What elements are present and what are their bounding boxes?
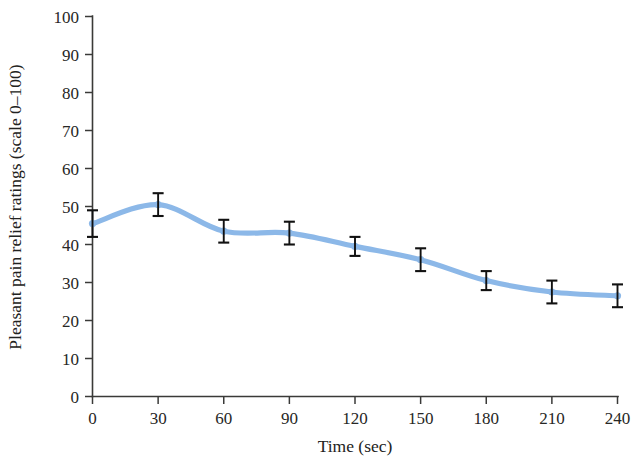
x-tick-label: 90: [281, 409, 298, 428]
y-tick-label: 70: [62, 122, 79, 141]
chart-figure: Pleasant pain relief ratings (scale 0–10…: [0, 0, 641, 458]
x-axis-title: Time (sec): [318, 436, 393, 456]
x-tick-label: 30: [150, 409, 167, 428]
y-tick-label: 0: [71, 388, 80, 407]
x-tick-label: 60: [215, 409, 232, 428]
y-tick-label: 60: [62, 160, 79, 179]
x-tick-label: 240: [605, 409, 631, 428]
x-axis-ticks: 0306090120150180210240: [88, 397, 630, 429]
y-tick-label: 10: [62, 350, 79, 369]
y-tick-label: 50: [62, 198, 79, 217]
y-axis-title: Pleasant pain relief ratings (scale 0–10…: [5, 64, 25, 349]
x-tick-label: 210: [539, 409, 565, 428]
y-tick-label: 80: [62, 84, 79, 103]
x-tick-label: 150: [408, 409, 434, 428]
x-tick-label: 180: [474, 409, 500, 428]
y-tick-label: 20: [62, 312, 79, 331]
y-tick-label: 40: [62, 236, 79, 255]
y-tick-label: 30: [62, 274, 79, 293]
y-axis-ticks: 0102030405060708090100: [54, 8, 93, 407]
x-tick-label: 120: [342, 409, 368, 428]
line-chart: Pleasant pain relief ratings (scale 0–10…: [0, 0, 641, 458]
x-tick-label: 0: [88, 409, 97, 428]
y-tick-label: 100: [54, 8, 80, 27]
y-tick-label: 90: [62, 46, 79, 65]
